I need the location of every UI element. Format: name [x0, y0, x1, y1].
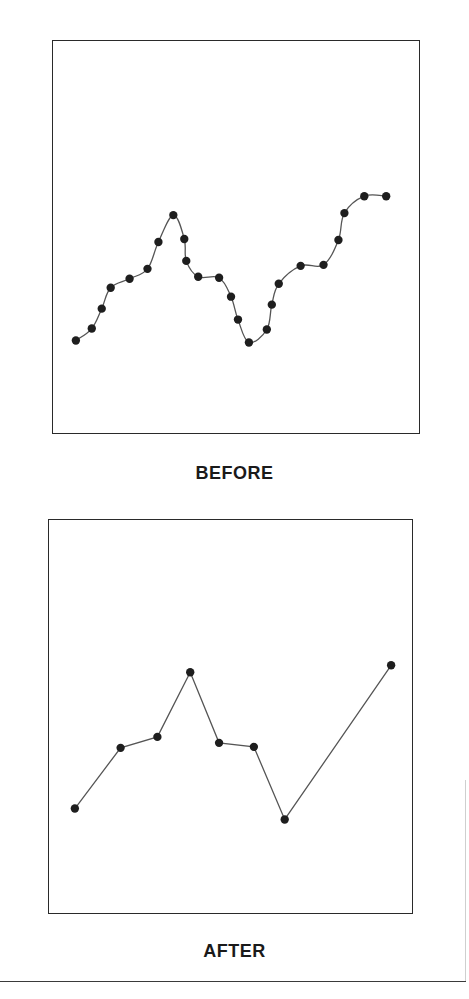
after-data-point: [186, 668, 194, 676]
after-caption: AFTER: [0, 941, 469, 962]
before-data-point: [263, 325, 271, 333]
before-chart-frame: [52, 40, 420, 434]
before-caption: BEFORE: [0, 463, 469, 484]
after-chart-frame: [48, 519, 413, 914]
after-data-point: [387, 661, 395, 669]
before-data-point: [275, 280, 283, 288]
after-data-point: [250, 743, 258, 751]
before-data-point: [360, 192, 368, 200]
after-data-point: [71, 804, 79, 812]
after-data-point: [215, 739, 223, 747]
bottom-divider: [0, 981, 466, 982]
after-chart-plot: [49, 520, 412, 913]
after-data-point: [281, 815, 289, 823]
before-data-point: [227, 293, 235, 301]
before-data-point: [88, 324, 96, 332]
before-line: [76, 195, 386, 343]
before-data-point: [382, 192, 390, 200]
before-data-point: [296, 262, 304, 270]
before-data-point: [180, 235, 188, 243]
before-data-point: [125, 275, 133, 283]
before-data-point: [268, 300, 276, 308]
after-line: [75, 665, 391, 819]
before-chart-plot: [53, 41, 419, 433]
before-data-point: [98, 304, 106, 312]
before-data-point: [154, 238, 162, 246]
before-data-point: [245, 338, 253, 346]
after-data-point: [116, 744, 124, 752]
page-edge-line: [465, 780, 466, 981]
before-data-point: [143, 265, 151, 273]
before-data-point: [234, 315, 242, 323]
before-data-point: [340, 209, 348, 217]
after-data-point: [153, 733, 161, 741]
before-data-point: [107, 284, 115, 292]
before-data-point: [169, 211, 177, 219]
before-data-point: [194, 273, 202, 281]
before-data-point: [334, 236, 342, 244]
before-data-point: [72, 336, 80, 344]
before-data-point: [215, 274, 223, 282]
before-data-point: [182, 257, 190, 265]
before-data-point: [319, 261, 327, 269]
